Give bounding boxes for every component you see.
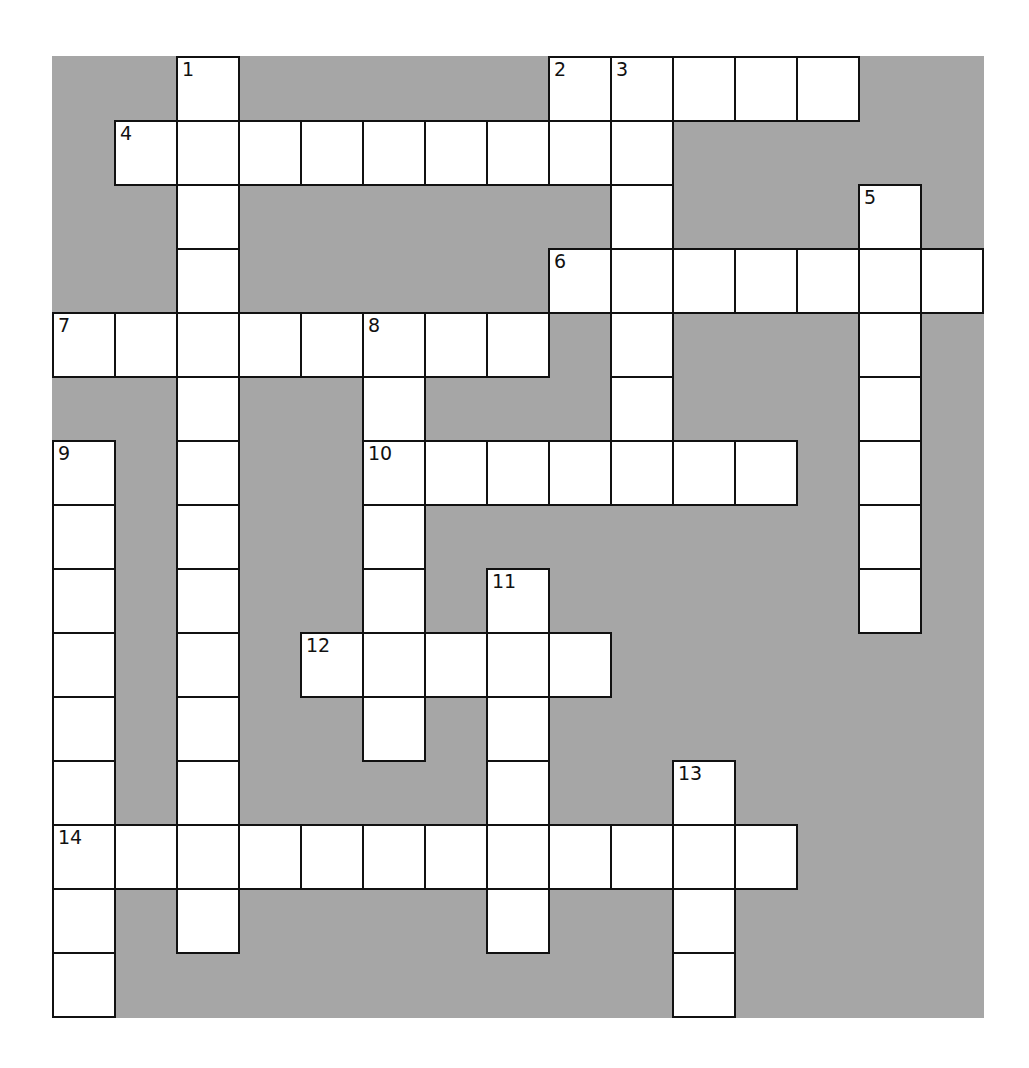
crossword-cell[interactable]: [734, 440, 798, 506]
crossword-cell[interactable]: [610, 376, 674, 442]
crossword-cell[interactable]: [238, 312, 302, 378]
crossword-cell[interactable]: [610, 824, 674, 890]
crossword-cell[interactable]: [176, 824, 240, 890]
crossword-cell[interactable]: 10: [362, 440, 426, 506]
crossword-cell[interactable]: [362, 504, 426, 570]
crossword-cell[interactable]: 1: [176, 56, 240, 122]
crossword-cell[interactable]: [858, 312, 922, 378]
crossword-cell[interactable]: [734, 248, 798, 314]
crossword-cell[interactable]: [52, 632, 116, 698]
crossword-cell[interactable]: [486, 824, 550, 890]
crossword-cell[interactable]: [858, 248, 922, 314]
crossword-cell[interactable]: [858, 568, 922, 634]
crossword-cell[interactable]: 6: [548, 248, 612, 314]
crossword-cell[interactable]: [796, 56, 860, 122]
crossword-cell[interactable]: [176, 888, 240, 954]
crossword-cell[interactable]: [548, 440, 612, 506]
crossword-cell[interactable]: [424, 312, 488, 378]
crossword-cell[interactable]: [548, 824, 612, 890]
crossword-cell[interactable]: 11: [486, 568, 550, 634]
crossword-cell[interactable]: [672, 56, 736, 122]
crossword-cell[interactable]: [114, 312, 178, 378]
crossword-cell[interactable]: [610, 440, 674, 506]
crossword-cell[interactable]: [424, 120, 488, 186]
crossword-cell[interactable]: [424, 440, 488, 506]
crossword-cell[interactable]: 14: [52, 824, 116, 890]
crossword-cell[interactable]: [920, 248, 984, 314]
crossword-cell[interactable]: [176, 504, 240, 570]
crossword-cell[interactable]: [734, 824, 798, 890]
crossword-cell[interactable]: [548, 632, 612, 698]
crossword-cell[interactable]: [176, 184, 240, 250]
crossword-cell[interactable]: [300, 120, 364, 186]
crossword-cell[interactable]: 3: [610, 56, 674, 122]
crossword-cell[interactable]: [176, 312, 240, 378]
crossword-cell[interactable]: [486, 888, 550, 954]
crossword-cell[interactable]: [486, 120, 550, 186]
crossword-cell[interactable]: [362, 824, 426, 890]
crossword-cell[interactable]: [52, 952, 116, 1018]
crossword-cell[interactable]: [238, 824, 302, 890]
crossword-cell[interactable]: [114, 824, 178, 890]
crossword-cell[interactable]: [238, 120, 302, 186]
crossword-cell[interactable]: [486, 760, 550, 826]
crossword-cell[interactable]: [424, 824, 488, 890]
crossword-cell[interactable]: [362, 568, 426, 634]
crossword-cell[interactable]: [362, 696, 426, 762]
crossword-cell[interactable]: [672, 888, 736, 954]
crossword-cell[interactable]: [52, 696, 116, 762]
crossword-cell[interactable]: [362, 120, 426, 186]
crossword-cell[interactable]: [734, 56, 798, 122]
crossword-cell[interactable]: [858, 440, 922, 506]
crossword-cell[interactable]: [610, 312, 674, 378]
clue-number: 5: [864, 188, 876, 207]
crossword-cell[interactable]: [610, 248, 674, 314]
crossword-cell[interactable]: [672, 248, 736, 314]
crossword-cell[interactable]: [176, 632, 240, 698]
crossword-cell[interactable]: [486, 696, 550, 762]
crossword-cell[interactable]: [176, 376, 240, 442]
crossword-cell[interactable]: [424, 632, 488, 698]
crossword-cell[interactable]: [176, 248, 240, 314]
crossword-cell[interactable]: 7: [52, 312, 116, 378]
clue-number: 14: [58, 828, 82, 847]
crossword-cell[interactable]: [486, 440, 550, 506]
crossword-cell[interactable]: [52, 504, 116, 570]
crossword-cell[interactable]: [858, 504, 922, 570]
crossword-cell[interactable]: 12: [300, 632, 364, 698]
crossword-cell[interactable]: [486, 312, 550, 378]
crossword-cell[interactable]: 13: [672, 760, 736, 826]
crossword-cell[interactable]: [52, 888, 116, 954]
crossword-cell[interactable]: 4: [114, 120, 178, 186]
crossword-cell[interactable]: 5: [858, 184, 922, 250]
crossword-cell[interactable]: [858, 376, 922, 442]
crossword-cell[interactable]: [610, 184, 674, 250]
clue-number: 13: [678, 764, 702, 783]
crossword-cell[interactable]: [672, 440, 736, 506]
clue-number: 8: [368, 316, 380, 335]
clue-number: 12: [306, 636, 330, 655]
crossword-cell[interactable]: [52, 568, 116, 634]
crossword-cell[interactable]: [672, 952, 736, 1018]
crossword-cell[interactable]: [176, 696, 240, 762]
crossword-cell[interactable]: [176, 120, 240, 186]
crossword-cell[interactable]: [362, 632, 426, 698]
crossword-cell[interactable]: [362, 376, 426, 442]
crossword-cell[interactable]: [610, 120, 674, 186]
crossword-cell[interactable]: [176, 568, 240, 634]
crossword-cell[interactable]: [796, 248, 860, 314]
crossword-cell[interactable]: [548, 120, 612, 186]
crossword-cell[interactable]: [486, 632, 550, 698]
clue-number: 4: [120, 124, 132, 143]
clue-number: 1: [182, 60, 194, 79]
crossword-cell[interactable]: [300, 824, 364, 890]
crossword-cell[interactable]: [176, 760, 240, 826]
crossword-cell[interactable]: 2: [548, 56, 612, 122]
crossword-cell[interactable]: [52, 760, 116, 826]
clue-number: 10: [368, 444, 392, 463]
crossword-cell[interactable]: [300, 312, 364, 378]
crossword-cell[interactable]: 9: [52, 440, 116, 506]
crossword-cell[interactable]: [672, 824, 736, 890]
crossword-cell[interactable]: 8: [362, 312, 426, 378]
crossword-cell[interactable]: [176, 440, 240, 506]
